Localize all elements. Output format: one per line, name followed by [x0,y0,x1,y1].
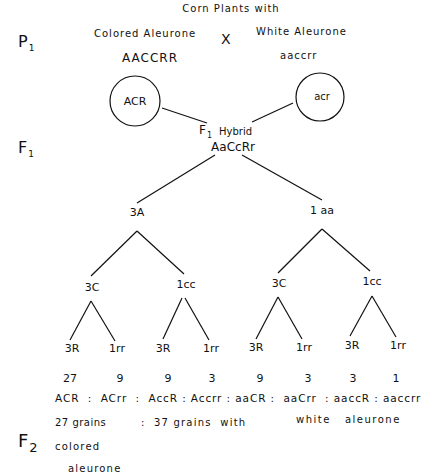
ratio-count: 9 [257,373,264,384]
tree-node-1aa: 1 aa [310,205,334,216]
tree-node-3c: 3C [85,282,100,293]
generation-label-p1: P1 [18,34,34,50]
ratio-count: 3 [209,373,216,384]
hybrid-label: Hybrid [219,127,252,137]
p1-sub: 1 [29,43,35,53]
tree-leaf-3r: 3R [65,343,80,354]
colored-aleurone-label: aleurone [68,464,122,474]
ratio-count: 9 [117,373,124,384]
tree-node-1cc: 1cc [362,276,381,287]
tree-leaf-3r: 3R [249,342,264,353]
white-count: 37 grains with [154,418,246,428]
tree-leaf-1rr: 1rr [296,342,312,353]
hybrid-prefix: F1 [199,124,212,136]
ratio-count: 3 [305,373,312,384]
f2-letter: F [18,430,28,451]
hybrid-genotype: AaCcRr [211,141,255,153]
ratio-count: 9 [165,373,172,384]
gamete-right: acr [314,92,330,102]
f2-sub: 2 [29,440,37,455]
parent-right-phenotype: White Aleurone [256,27,347,37]
tree-leaf-3r: 3R [345,340,360,351]
tree-node-3c: 3C [272,278,287,289]
f1-sub: 1 [28,149,34,159]
parent-right-genotype: aaccrr [280,51,317,61]
tree-node-1cc: 1cc [176,279,195,290]
parent-left-phenotype: Colored Aleurone [94,29,196,39]
ratio-count: 3 [350,373,357,384]
ratio-count: 27 [63,373,77,384]
tree-leaf-1rr: 1rr [109,343,125,354]
generation-label-f1: F1 [18,140,34,156]
generation-label-f2: F2 [18,432,38,450]
tree-leaf-1rr: 1rr [203,343,219,354]
tree-leaf-3r: 3R [156,343,171,354]
white-aleurone-label: white aleurone [296,415,401,425]
tree-leaf-1rr: 1rr [390,340,406,351]
f1-letter: F [18,138,27,157]
hybrid-prefix-letter: F [199,123,206,137]
cross-diagram-lines [0,0,443,476]
ratio-count: 1 [393,373,400,384]
colored-label: colored [55,442,100,452]
tree-node-3a: 3A [130,207,145,218]
gamete-left: ACR [124,96,147,107]
cross-symbol: X [221,32,231,46]
hybrid-prefix-sub: 1 [207,131,212,140]
summary-separator: : [141,418,144,428]
colored-count: 27 grains [55,418,106,428]
ratio-genotypes: ACR : ACrr : AccR : Accrr : aaCR : aaCrr… [55,393,421,404]
diagram-title: Corn Plants with [182,4,279,14]
p1-letter: P [18,32,28,51]
parent-left-genotype: AACCRR [122,52,178,64]
